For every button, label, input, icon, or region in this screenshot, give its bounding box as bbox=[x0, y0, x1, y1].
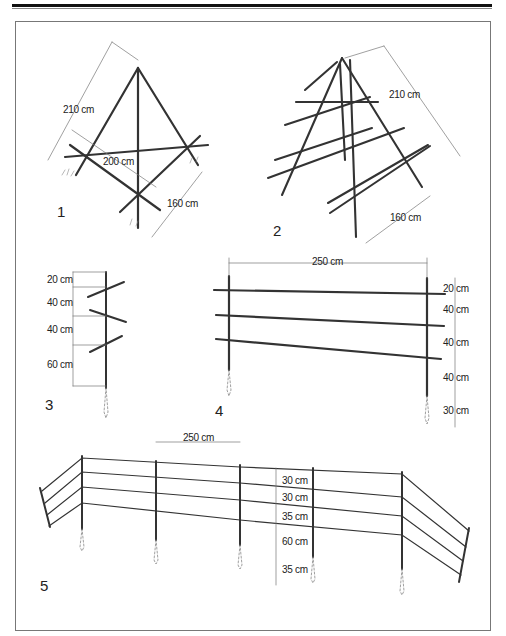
fig4-gap1-label: 40 cm bbox=[443, 304, 469, 315]
fig4-top-label: 20 cm bbox=[443, 283, 469, 294]
figure-5-number: 5 bbox=[40, 577, 48, 594]
fig5-bottom-label: 60 cm bbox=[282, 536, 308, 547]
fig1-crossbar-label: 200 cm bbox=[103, 156, 134, 167]
figure-5-drawing bbox=[40, 456, 469, 582]
fig5-gap3-label: 35 cm bbox=[282, 511, 308, 522]
fig3-top-label: 20 cm bbox=[47, 274, 73, 285]
figure-1-grass bbox=[62, 157, 198, 226]
fig3-gap2-label: 40 cm bbox=[47, 324, 73, 335]
figure-3-number: 3 bbox=[45, 396, 53, 413]
illustration-drawings bbox=[0, 0, 506, 636]
fig2-leg-length-label: 210 cm bbox=[389, 89, 420, 100]
fig4-span-label: 250 cm bbox=[312, 256, 343, 267]
figure-2-drawing bbox=[268, 58, 430, 237]
figure-1-number: 1 bbox=[57, 203, 65, 220]
fig1-base-width-label: 160 cm bbox=[167, 198, 198, 209]
figure-5-wires bbox=[42, 458, 469, 575]
fig5-span-label: 250 cm bbox=[183, 432, 214, 443]
fig2-base-width-label: 160 cm bbox=[390, 212, 421, 223]
figure-3-dimensions bbox=[73, 272, 108, 418]
fig5-gap1-label: 30 cm bbox=[282, 475, 308, 486]
figure-3-drawing bbox=[88, 272, 126, 388]
fig4-gap2-label: 40 cm bbox=[443, 337, 469, 348]
fig3-bottom-label: 60 cm bbox=[47, 359, 73, 370]
fig3-gap1-label: 40 cm bbox=[47, 297, 73, 308]
figure-2-number: 2 bbox=[273, 222, 281, 239]
figure-4-number: 4 bbox=[215, 402, 223, 419]
fig4-buried-label: 30 cm bbox=[443, 405, 469, 416]
figure-5-dimensions bbox=[80, 442, 404, 595]
fig5-gap2-label: 30 cm bbox=[282, 492, 308, 503]
fig5-buried-label: 35 cm bbox=[282, 564, 308, 575]
fig1-leg-length-label: 210 cm bbox=[63, 104, 94, 115]
figure-4-drawing bbox=[214, 276, 445, 396]
fig4-bottom-label: 40 cm bbox=[443, 372, 469, 383]
